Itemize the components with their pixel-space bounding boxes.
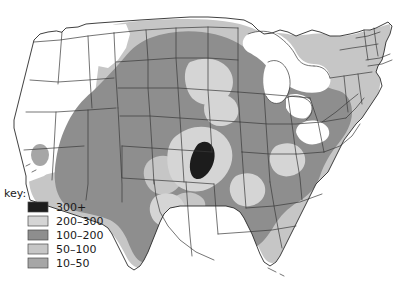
legend-swatch-1 <box>28 216 48 226</box>
legend-label-3: 50–100 <box>56 243 97 256</box>
legend-title: key: <box>4 187 26 200</box>
legend-label-4: 10–50 <box>56 257 90 270</box>
choropleth-map-figure: key: 300+ 200–300 100–200 50–100 10–50 <box>0 0 404 287</box>
legend-swatch-3 <box>28 244 48 254</box>
legend-swatch-0 <box>28 202 48 212</box>
legend-label-2: 100–200 <box>56 229 104 242</box>
legend-swatch-4 <box>28 258 48 268</box>
legend-swatch-2 <box>28 230 48 240</box>
legend-label-0: 300+ <box>56 201 86 214</box>
legend-label-1: 200–300 <box>56 215 104 228</box>
choropleth-svg: key: 300+ 200–300 100–200 50–100 10–50 <box>0 0 404 287</box>
